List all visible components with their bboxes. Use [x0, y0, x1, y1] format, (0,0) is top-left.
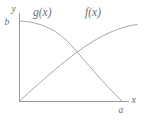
function-plot: y x b a g(x) f(x) — [0, 0, 150, 127]
y-intercept-label: b — [5, 17, 10, 27]
curve-f — [20, 25, 138, 102]
x-intercept-label: a — [119, 105, 124, 115]
curve-g — [20, 21, 123, 101]
math-figure: y x b a g(x) f(x) — [0, 0, 150, 127]
x-axis-label: x — [131, 94, 137, 105]
curve-g-label: g(x) — [33, 6, 52, 19]
y-axis-label: y — [11, 3, 17, 14]
curve-f-label: f(x) — [85, 6, 101, 19]
